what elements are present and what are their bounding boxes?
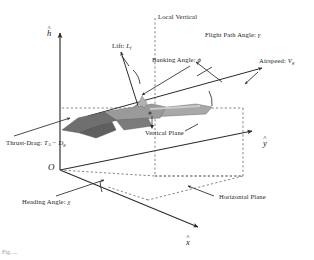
heading-angle-leader [56, 180, 104, 196]
label-banking-angle-text: Banking Angle: [152, 56, 197, 63]
label-local-vertical: Local Vertical [158, 14, 197, 21]
y-axis-line [60, 131, 252, 170]
horizontal-plane-outline [60, 170, 243, 200]
figure-caption: Fig. ... [2, 249, 18, 255]
label-flight-path-angle-symbol: γ [258, 31, 261, 38]
thrust-drag-leader [14, 118, 70, 136]
banking-angle-arc [133, 70, 140, 84]
label-horizontal-plane: Horizontal Plane [219, 194, 266, 201]
vertical-plane-leader [185, 124, 198, 131]
x-axis-hat-accent: ^ [186, 234, 189, 241]
label-flight-path-angle-text: Flight Path Angle: [205, 31, 258, 38]
axis-y [60, 131, 252, 170]
label-banking-angle-symbol: ϕ [197, 56, 201, 63]
label-flight-path-angle: Flight Path Angle: γ [205, 32, 261, 39]
h-axis-hat-accent: ^ [47, 25, 50, 32]
axis-label-y: ^ y [263, 139, 267, 148]
axis-label-x: ^ x [186, 238, 190, 247]
label-thrust-drag-sub2: g [63, 142, 66, 147]
flight-path-angle-arc [209, 91, 212, 106]
label-thrust-drag-text: Thrust-Drag: [6, 139, 44, 146]
y-axis-hat-accent: ^ [263, 135, 266, 142]
label-heading-angle-symbol: χ [67, 198, 70, 205]
label-airspeed: Airspeed: Vg [259, 58, 295, 66]
label-thrust-drag: Thrust-Drag: TA − Dg [6, 140, 66, 148]
heading-angle-arc [100, 181, 102, 192]
axis-label-h: ^ h [47, 29, 51, 38]
airspeed-leader [245, 72, 258, 84]
lift-vector [121, 52, 140, 112]
hplane-edge-a [60, 170, 155, 176]
label-airspeed-subscript: g [292, 60, 295, 65]
origin-label: O [48, 163, 55, 172]
label-vertical-plane: Vertical Plane [145, 130, 184, 137]
lift-leader [122, 56, 129, 66]
axis-x [60, 170, 198, 227]
label-lift-text: Lift: [112, 42, 126, 49]
label-lift: Lift: Lf [112, 43, 132, 51]
label-heading-angle-text: Heading Angle: [22, 198, 67, 205]
label-lift-subscript: f [130, 45, 131, 50]
aircraft-center-marker [148, 111, 151, 114]
figure-root: Local Vertical Lift: Lf Banking Angle: ϕ… [0, 0, 314, 260]
banking-angle-leader [142, 66, 190, 95]
x-axis-line [60, 170, 198, 227]
label-airspeed-text: Airspeed: [259, 57, 288, 64]
flight-path-angle-leader [196, 62, 222, 82]
label-heading-angle: Heading Angle: χ [22, 199, 71, 206]
label-banking-angle: Banking Angle: ϕ [152, 57, 201, 64]
horizontal-plane-leader [188, 186, 214, 196]
